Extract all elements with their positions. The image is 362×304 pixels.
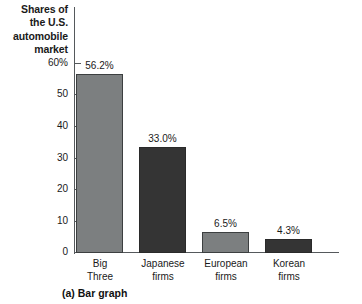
y-tick-label-50: 50 bbox=[0, 89, 68, 99]
y-tick-label-40: 40 bbox=[0, 121, 68, 131]
y-tick-label-10: 10 bbox=[0, 216, 68, 226]
bar-value-japanese-firms: 33.0% bbox=[139, 133, 186, 144]
figure-caption: (a) Bar graph bbox=[62, 287, 127, 299]
y-axis-title: Shares of the U.S. automobile market bbox=[0, 3, 68, 56]
y-tick-label-0: 0 bbox=[0, 247, 68, 257]
bar-european-firms[interactable] bbox=[202, 232, 249, 253]
category-label-korean-firms-line-1: Korean bbox=[255, 258, 323, 271]
category-label-big-three: Big Three bbox=[66, 258, 134, 283]
category-label-korean-firms-line-2: firms bbox=[255, 271, 323, 284]
y-axis-title-line-1: Shares of bbox=[0, 3, 68, 16]
bar-korean-firms[interactable] bbox=[265, 239, 312, 253]
bar-value-european-firms: 6.5% bbox=[202, 218, 249, 229]
category-label-european-firms-line-1: European bbox=[192, 258, 260, 271]
y-tick-label-30: 30 bbox=[0, 153, 68, 163]
category-label-european-firms: European firms bbox=[192, 258, 260, 283]
category-label-japanese-firms-line-1: Japanese bbox=[129, 258, 197, 271]
category-label-japanese-firms: Japanese firms bbox=[129, 258, 197, 283]
bar-value-korean-firms: 4.3% bbox=[265, 225, 312, 236]
category-label-japanese-firms-line-2: firms bbox=[129, 271, 197, 284]
bar-big-three[interactable] bbox=[76, 74, 123, 253]
category-label-european-firms-line-2: firms bbox=[192, 271, 260, 284]
y-tick-label-20: 20 bbox=[0, 184, 68, 194]
category-label-big-three-line-1: Big bbox=[66, 258, 134, 271]
bar-value-big-three: 56.2% bbox=[76, 60, 123, 71]
y-tick-label-60: 60% bbox=[0, 58, 68, 68]
category-label-big-three-line-2: Three bbox=[66, 271, 134, 284]
bar-chart-figure: Shares of the U.S. automobile market 60%… bbox=[0, 0, 362, 304]
y-axis-title-line-3: automobile bbox=[0, 30, 68, 43]
bar-japanese-firms[interactable] bbox=[139, 147, 186, 253]
category-label-korean-firms: Korean firms bbox=[255, 258, 323, 283]
y-axis-title-line-2: the U.S. bbox=[0, 16, 68, 29]
y-axis-title-line-4: market bbox=[0, 43, 68, 56]
